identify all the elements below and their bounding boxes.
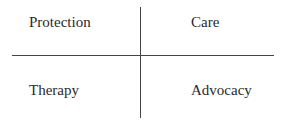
quadrant-label-care: Care (191, 14, 219, 30)
quadrant-label-advocacy: Advocacy (191, 82, 252, 98)
quadrant-label-protection: Protection (29, 14, 91, 30)
vertical-axis-line (140, 7, 141, 118)
horizontal-axis-line (12, 55, 274, 56)
quadrant-label-therapy: Therapy (29, 82, 79, 98)
